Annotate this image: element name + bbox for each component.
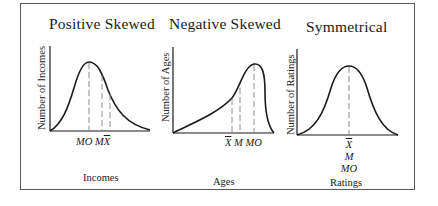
mean-marker: X bbox=[225, 137, 231, 148]
symmetrical-y-axis-label: Number of Ratings bbox=[285, 55, 296, 136]
median-marker: M bbox=[234, 137, 243, 148]
symmetrical-plot bbox=[297, 49, 398, 135]
positive-skewed-title: Positive Skewed bbox=[49, 15, 155, 33]
mean-marker: X bbox=[331, 139, 367, 151]
positive-skewed-markers: MO MX bbox=[76, 136, 110, 147]
mode-marker: MO bbox=[76, 136, 92, 147]
negative-skewed-y-axis-label: Number of Ages bbox=[160, 53, 171, 122]
symmetrical-title: Symmetrical bbox=[306, 18, 387, 36]
symmetrical-markers: X M MO bbox=[331, 139, 367, 175]
negative-skewed-title: Negative Skewed bbox=[169, 15, 281, 33]
mode-marker: MO bbox=[331, 163, 367, 175]
positive-skew-plot bbox=[50, 46, 150, 131]
positive-skewed-x-axis-label: Incomes bbox=[83, 172, 119, 183]
median-marker: M bbox=[331, 151, 367, 163]
negative-skewed-x-axis-label: Ages bbox=[213, 176, 235, 187]
median-marker: M bbox=[95, 136, 104, 147]
negative-skew-plot bbox=[173, 47, 274, 133]
mean-marker: X bbox=[104, 136, 110, 147]
positive-skewed-y-axis-label: Number of Incomes bbox=[36, 46, 47, 130]
symmetrical-x-axis-label: Ratings bbox=[330, 177, 362, 188]
negative-skewed-markers: X M MO bbox=[225, 137, 262, 148]
mode-marker: MO bbox=[245, 137, 261, 148]
